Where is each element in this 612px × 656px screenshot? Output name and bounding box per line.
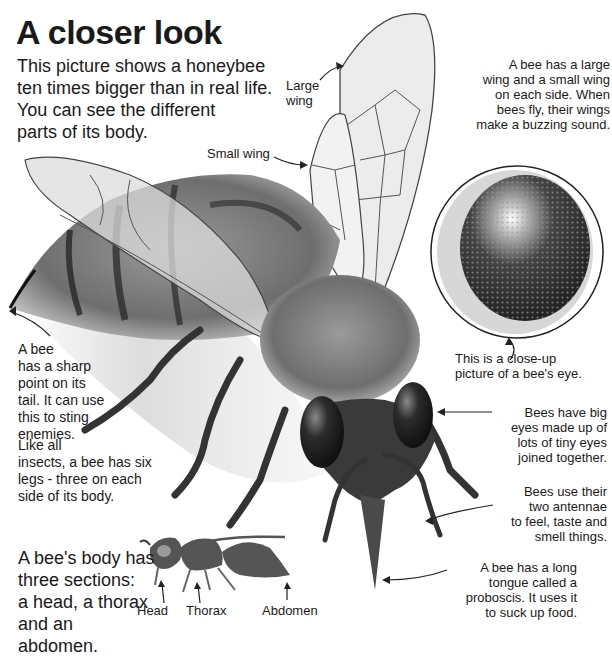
compound-eye-right <box>393 382 433 448</box>
part-label-abdomen: Abdomen <box>262 603 318 618</box>
note-legs: Like all insects, a bee has six legs - t… <box>18 437 168 505</box>
compound-eye-left <box>300 396 344 468</box>
note-antennae: Bees use their two antennae to feel, tas… <box>470 484 607 544</box>
part-label-thorax: Thorax <box>186 603 226 618</box>
note-sting: A bee has a sharp point on its tail. It … <box>18 341 128 443</box>
note-wings: A bee has a large wing and a small wing … <box>440 57 610 132</box>
label-large-wing: Large wing <box>286 78 319 108</box>
proboscis <box>360 495 385 590</box>
eye-closeup <box>431 166 603 338</box>
part-label-head: Head <box>137 603 168 618</box>
thorax <box>260 275 420 405</box>
intro-text: This picture shows a honeybee ten times … <box>17 55 287 143</box>
note-body-sections: A bee's body has three sections: a head,… <box>18 547 168 656</box>
label-small-wing: Small wing <box>207 146 270 161</box>
page-title: A closer look <box>16 12 222 52</box>
note-tongue: A bee has a long tongue called a probosc… <box>440 560 577 620</box>
note-eye-closeup: This is a close-up picture of a bee's ey… <box>455 351 605 381</box>
note-eyes: Bees have big eyes made up of lots of ti… <box>470 405 607 465</box>
head <box>300 382 440 590</box>
